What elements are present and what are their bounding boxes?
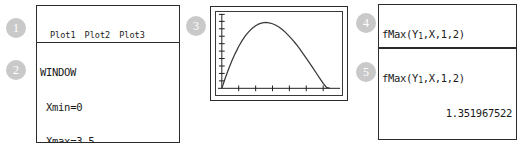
cubic-function-curve <box>222 22 330 88</box>
calculator-screen-y-editor: Plot1Plot2Plot3 \Y14X^3-34X2+70 X \Y2= <box>36 5 180 43</box>
window-setting-xmin[interactable]: Xmin=0 <box>40 102 177 114</box>
window-text: WINDOW Xmin=0 Xmax=3.5 Xscl=.5 Ymin=0 Ym… <box>40 44 177 143</box>
fmax-command: fMax(Y <box>382 28 418 40</box>
fmax-command-row[interactable]: fMax(Y1,X,1,2) <box>382 29 514 41</box>
step-badge-3: 3 <box>186 16 206 36</box>
fmax-eval-command: fMax(Y <box>382 72 418 84</box>
fmax-eval-text: fMax(Y1,X,1,2) 1.351967522 Y1(Ans) 42.37… <box>382 50 514 140</box>
fmax-args: ,X,1,2) <box>423 28 465 40</box>
plot-indicator-row: Plot1Plot2Plot3 <box>40 30 177 40</box>
plot2-label[interactable]: Plot2 <box>85 30 111 40</box>
step-badge-4: 4 <box>356 13 376 33</box>
calculator-screen-fmax-eval: fMax(Y1,X,1,2) 1.351967522 Y1(Ans) 42.37… <box>378 48 517 140</box>
step-badge-2: 2 <box>6 60 26 80</box>
fmax-text: fMax(Y1,X,1,2) 1.351967522 <box>382 6 514 48</box>
y-editor-text: Plot1Plot2Plot3 \Y14X^3-34X2+70 X \Y2= <box>40 7 177 43</box>
xmin-label: Xmin <box>46 101 70 113</box>
plot1-label[interactable]: Plot1 <box>50 30 76 40</box>
calculator-screen-fmax: fMax(Y1,X,1,2) 1.351967522 <box>378 4 517 48</box>
calculator-screen-graph <box>210 6 348 101</box>
xmax-label: Xmax <box>46 135 70 143</box>
calculator-screen-window: WINDOW Xmin=0 Xmax=3.5 Xscl=.5 Ymin=0 Ym… <box>36 42 180 143</box>
window-title: WINDOW <box>40 67 177 79</box>
window-setting-xmax[interactable]: Xmax=3.5 <box>40 136 177 143</box>
xmax-value: 3.5 <box>76 135 94 143</box>
graph-plot-area <box>215 11 343 96</box>
fmax-eval-args: ,X,1,2) <box>423 72 465 84</box>
xmin-value: 0 <box>76 101 82 113</box>
graph-curve-svg <box>216 12 342 95</box>
fmax-eval-result: 1.351967522 <box>382 108 514 120</box>
fmax-eval-command-row[interactable]: fMax(Y1,X,1,2) <box>382 73 514 85</box>
step-badge-5: 5 <box>356 62 376 82</box>
plot3-label[interactable]: Plot3 <box>119 30 145 40</box>
step-badge-1: 1 <box>6 18 26 38</box>
